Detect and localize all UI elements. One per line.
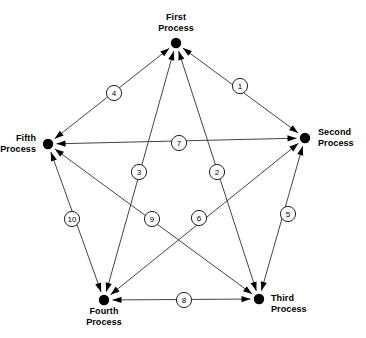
process-graph: 12345678910 [0, 0, 366, 338]
node-label-first-line2: Process [136, 23, 216, 34]
nodes-layer [43, 38, 310, 305]
node-dot-second [300, 133, 310, 143]
arrow-head [51, 152, 57, 162]
arrow-head [289, 125, 298, 133]
arrow-head [297, 146, 303, 156]
edge-label-text: 7 [177, 139, 182, 148]
edge-label-text: 1 [238, 82, 243, 91]
node-label-fourth-line1: Fourth [64, 306, 144, 317]
arrow-head [183, 48, 192, 56]
node-label-third-line2: Process [271, 304, 331, 315]
edge-label-text: 10 [68, 215, 77, 224]
edge-label-8: 8 [176, 292, 191, 307]
edge-label-10: 10 [64, 211, 79, 226]
edge-labels-layer: 12345678910 [64, 78, 295, 307]
node-label-third: Third Process [271, 293, 331, 315]
arrow-head [251, 281, 257, 291]
arrow-head [112, 297, 121, 303]
arrow-head [55, 149, 64, 157]
arrow-head [168, 51, 174, 61]
arrow-head [287, 135, 296, 141]
node-label-second-line1: Second [318, 127, 366, 138]
arrow-head [55, 131, 64, 139]
node-label-first: First Process [136, 12, 216, 34]
arrow-head [243, 286, 252, 294]
diagram-canvas: 12345678910 First Process Second Process… [0, 0, 366, 338]
arrow-head [241, 296, 250, 302]
edge-label-text: 6 [197, 214, 202, 223]
edge-label-text: 9 [150, 215, 155, 224]
node-label-second: Second Process [318, 127, 366, 149]
arrow-head [106, 282, 112, 292]
node-label-fifth-line2: Process [0, 144, 36, 155]
node-label-second-line2: Process [318, 138, 366, 149]
arrow-head [111, 287, 120, 295]
edge-label-7: 7 [171, 135, 186, 150]
arrow-head [160, 48, 169, 56]
node-dot-third [254, 294, 264, 304]
edge-label-9: 9 [144, 211, 159, 226]
arrow-head [178, 51, 184, 61]
edge-label-text: 8 [182, 296, 187, 305]
arrow-head [289, 143, 298, 151]
edge-label-2: 2 [209, 164, 224, 179]
edge-label-text: 2 [215, 168, 220, 177]
arrow-head [56, 140, 65, 146]
arrow-head [95, 282, 101, 292]
node-dot-first [171, 38, 181, 48]
node-dot-fifth [43, 139, 53, 149]
edge-label-4: 4 [106, 85, 121, 100]
edge-label-3: 3 [131, 164, 146, 179]
node-label-fifth-line1: Fifth [0, 133, 36, 144]
edge-label-text: 3 [137, 168, 142, 177]
node-label-fourth-line2: Process [64, 317, 144, 328]
node-label-fourth: Fourth Process [64, 306, 144, 328]
edge-label-text: 5 [286, 210, 291, 219]
edges-layer [51, 48, 303, 303]
edge-label-1: 1 [232, 78, 247, 93]
node-label-fifth: Fifth Process [0, 133, 36, 155]
node-label-first-line1: First [136, 12, 216, 23]
edge-label-text: 4 [112, 89, 117, 98]
arrow-head [261, 281, 267, 291]
edge-label-6: 6 [191, 210, 206, 225]
edge-label-5: 5 [280, 206, 295, 221]
node-label-third-line1: Third [271, 293, 331, 304]
node-dot-fourth [99, 295, 109, 305]
